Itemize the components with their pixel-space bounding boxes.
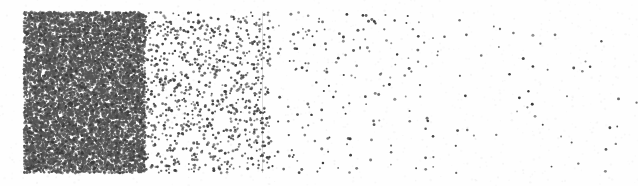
figure-root [0, 0, 638, 186]
stipple-density-plot-canvas [0, 0, 638, 186]
